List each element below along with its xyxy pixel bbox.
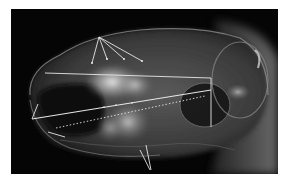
xray-figure bbox=[11, 9, 278, 174]
xray-image bbox=[11, 9, 278, 174]
